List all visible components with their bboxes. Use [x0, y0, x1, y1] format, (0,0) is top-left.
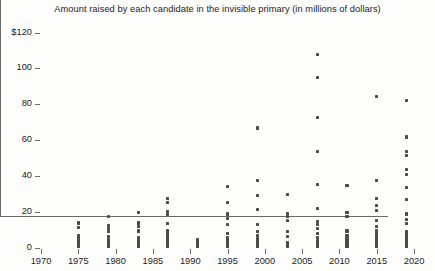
scatter-point	[196, 241, 199, 244]
scatter-point	[286, 212, 289, 215]
x-axis-tick	[302, 249, 303, 254]
scatter-point	[286, 243, 289, 246]
x-axis-tick	[153, 249, 154, 254]
scatter-point	[226, 236, 229, 239]
scatter-point	[137, 238, 140, 241]
scatter-point	[375, 240, 378, 243]
scatter-point	[375, 239, 378, 242]
scatter-point	[77, 234, 80, 237]
scatter-point	[226, 201, 229, 204]
scatter-point	[405, 212, 408, 215]
scatter-point	[286, 219, 289, 222]
scatter-point	[256, 237, 259, 240]
scatter-point	[137, 240, 140, 243]
scatter-point	[137, 225, 140, 228]
scatter-point	[405, 154, 408, 157]
scatter-point	[345, 239, 348, 242]
scatter-point	[405, 135, 408, 138]
scatter-point	[256, 179, 259, 182]
scatter-point	[77, 226, 80, 229]
scatter-point	[375, 229, 378, 232]
scatter-point	[405, 150, 408, 153]
scatter-point	[166, 234, 169, 237]
scatter-point	[256, 223, 259, 226]
scatter-point	[286, 193, 289, 196]
scatter-point	[405, 242, 408, 245]
scatter-point	[405, 218, 408, 221]
scatter-point	[345, 229, 348, 232]
scatter-point	[77, 236, 80, 239]
scatter-point	[316, 76, 319, 79]
y-axis-tick-label: 80	[0, 98, 32, 108]
scatter-point	[405, 168, 408, 171]
scatter-point	[405, 236, 408, 239]
scatter-point	[166, 236, 169, 239]
scatter-point	[316, 227, 319, 230]
x-axis-tick	[339, 249, 340, 254]
x-axis-tick	[190, 249, 191, 254]
scatter-point	[316, 245, 319, 248]
scatter-point	[107, 238, 110, 241]
scatter-point	[107, 239, 110, 242]
scatter-point	[375, 225, 378, 228]
scatter-point	[316, 223, 319, 226]
scatter-point	[226, 223, 229, 226]
scatter-point	[226, 244, 229, 247]
scatter-point	[256, 245, 259, 248]
scatter-point	[196, 238, 199, 241]
scatter-point	[405, 235, 408, 238]
scatter-point	[316, 241, 319, 244]
scatter-point	[226, 217, 229, 220]
scatter-point	[196, 243, 199, 246]
scatter-point	[345, 243, 348, 246]
x-axis-line	[0, 216, 388, 217]
y-axis-tick-label: 100	[0, 62, 32, 72]
scatter-point	[256, 230, 259, 233]
scatter-point	[77, 242, 80, 245]
scatter-point	[166, 222, 169, 225]
scatter-point	[226, 238, 229, 241]
chart-figure: Amount raised by each candidate in the i…	[0, 0, 435, 271]
scatter-point	[345, 211, 348, 214]
scatter-point	[137, 244, 140, 247]
scatter-point	[226, 245, 229, 248]
scatter-point	[166, 245, 169, 248]
x-axis-tick	[377, 249, 378, 254]
scatter-point	[226, 240, 229, 243]
y-axis-tick	[35, 212, 40, 213]
scatter-point	[375, 244, 378, 247]
scatter-point	[137, 245, 140, 248]
scatter-point	[375, 231, 378, 234]
y-axis-tick-label: 40	[0, 170, 32, 180]
y-axis-tick-label: 0	[0, 242, 32, 252]
y-axis-tick	[35, 33, 40, 34]
scatter-point	[107, 230, 110, 233]
x-axis-tick-label: 2020	[389, 256, 435, 266]
scatter-point	[196, 245, 199, 248]
scatter-point	[77, 239, 80, 242]
scatter-point	[256, 241, 259, 244]
scatter-point	[137, 242, 140, 245]
scatter-point	[137, 221, 140, 224]
scatter-point	[137, 211, 140, 214]
scatter-point	[316, 183, 319, 186]
scatter-point	[166, 232, 169, 235]
scatter-point	[166, 197, 169, 200]
scatter-point	[405, 238, 408, 241]
y-axis-tick	[35, 248, 40, 249]
scatter-point	[77, 240, 80, 243]
scatter-point	[316, 239, 319, 242]
scatter-point	[375, 242, 378, 245]
scatter-point	[226, 232, 229, 235]
y-axis-tick	[35, 176, 40, 177]
y-axis-tick	[35, 104, 40, 105]
scatter-point	[166, 238, 169, 241]
scatter-point	[196, 244, 199, 247]
scatter-point	[256, 243, 259, 246]
scatter-point	[77, 221, 80, 224]
y-axis-tick-label: 60	[0, 134, 32, 144]
scatter-point	[256, 194, 259, 197]
scatter-point	[256, 234, 259, 237]
scatter-point	[77, 238, 80, 241]
scatter-point	[316, 236, 319, 239]
